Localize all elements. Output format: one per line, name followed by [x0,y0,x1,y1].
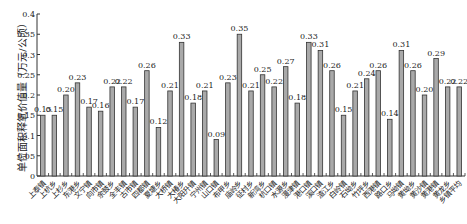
bar [364,79,369,176]
bar [388,119,393,176]
bar-value-label: 0.22 [450,77,467,86]
bar [133,107,138,176]
bar [64,95,68,176]
bar-value-label: 0.29 [427,49,445,58]
bar-value-label: 0.27 [277,57,295,66]
bars: 0.150.150.200.230.170.160.220.220.170.26… [34,24,467,176]
chart-canvas: 00.050.10.150.20.250.30.350.4 0.150.150.… [0,0,467,224]
bar-value-label: 0.31 [392,40,410,49]
bar-value-label: 0.33 [173,32,191,41]
bar-value-label: 0.18 [184,93,202,102]
bar [272,87,277,176]
bar [353,91,358,176]
bar [341,115,346,176]
bar-chart: 00.050.10.150.20.250.30.350.4 0.150.150.… [0,0,467,224]
bar [411,71,416,176]
bar-value-label: 0.23 [69,73,87,82]
bar-value-label: 0.26 [404,61,422,70]
bar-value-label: 0.21 [346,81,364,90]
bar-value-label: 0.31 [311,40,329,49]
bar [226,83,231,176]
bar [283,67,288,176]
bar-value-label: 0.21 [196,81,214,90]
bar [214,140,219,176]
bar [399,50,404,176]
bar [122,87,127,176]
bar [457,87,462,176]
bar [376,71,381,176]
bar-value-label: 0.21 [161,81,179,90]
bar [145,71,150,176]
x-axis-labels: 上泰镇上杭乡上杉乡东港乡文宁镇向市镇余鼓乡全丰镇古市镇四都镇夏塘乡大桥镇大椿乡大… [25,178,463,206]
y-tick-label: 0.4 [22,10,35,19]
bar-value-label: 0.22 [115,77,133,86]
bar [318,50,323,176]
bar [260,75,265,176]
bar [98,111,103,176]
bar [434,59,439,176]
bar-value-label: 0.21 [242,81,260,90]
bar-value-label: 0.15 [335,105,353,114]
bar [41,115,46,176]
bar [307,42,312,176]
bar-value-label: 0.12 [150,117,168,126]
bar [330,71,335,176]
bar [168,91,173,176]
bar-value-label: 0.09 [207,130,225,139]
bar [237,34,242,176]
bar-value-label: 0.17 [126,97,144,106]
bar-value-label: 0.26 [323,61,341,70]
bar-value-label: 0.14 [381,109,399,118]
bar-value-label: 0.20 [57,85,75,94]
bar-value-label: 0.26 [138,61,156,70]
y-tick-label: 0 [30,172,35,181]
bar [52,115,57,176]
bar-value-label: 0.26 [369,61,387,70]
bar-value-label: 0.20 [416,85,434,94]
bar [191,103,196,176]
bar-value-label: 0.35 [231,24,249,33]
bar-value-label: 0.16 [92,101,110,110]
bar-value-label: 0.24 [358,69,376,78]
bar [445,87,450,176]
bar [179,42,184,176]
bar [75,83,80,176]
bar [110,87,115,176]
bar [249,91,254,176]
bar-value-label: 0.22 [265,77,283,86]
bar-value-label: 0.15 [45,105,63,114]
bar-value-label: 0.18 [288,93,306,102]
bar-value-label: 0.23 [219,73,237,82]
bar-value-label: 0.25 [254,65,272,74]
bar [295,103,300,176]
bar [156,127,161,176]
bar [202,91,207,176]
bar [87,107,92,176]
bar [422,95,427,176]
y-axis-title: 单位面积释氧价值量（万元/公顷） [16,18,28,171]
